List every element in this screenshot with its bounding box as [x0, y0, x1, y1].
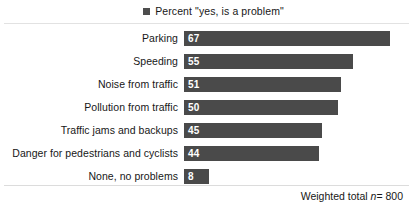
category-label-speeding: Speeding [0, 54, 178, 69]
category-label-none-no-problems: None, no problems [0, 169, 178, 184]
bar-pollution-from-traffic: 50 [184, 100, 338, 115]
bar-value-parking: 67 [188, 31, 200, 46]
bar-row: None, no problems 8 [0, 169, 413, 184]
bar-series-container: Parking 67 Speeding 55 Noise from traffi… [0, 25, 413, 185]
footnote-suffix: = 800 [376, 190, 403, 202]
bar-value-noise-from-traffic: 51 [188, 77, 200, 92]
bar-wrapper: 67 [184, 31, 390, 46]
legend-color-swatch-icon [143, 8, 150, 15]
bar-row: Danger for pedestrians and cyclists 44 [0, 146, 413, 161]
bar-value-pollution-from-traffic: 50 [188, 100, 200, 115]
bar-value-speeding: 55 [188, 54, 200, 69]
legend-label: Percent "yes, is a problem" [155, 5, 284, 17]
category-label-pollution-from-traffic: Pollution from traffic [0, 100, 178, 115]
bar-value-none-no-problems: 8 [188, 169, 194, 184]
chart-legend: Percent "yes, is a problem" [0, 2, 413, 20]
category-label-traffic-jams-and-backups: Traffic jams and backups [0, 123, 178, 138]
bar-wrapper: 44 [184, 146, 319, 161]
bar-wrapper: 51 [184, 77, 341, 92]
bar-traffic-jams-and-backups: 45 [184, 123, 322, 138]
bar-speeding: 55 [184, 54, 353, 69]
bar-wrapper: 45 [184, 123, 322, 138]
weighted-total-footnote: Weighted total n= 800 [301, 190, 403, 203]
bar-row: Speeding 55 [0, 54, 413, 69]
bar-wrapper: 8 [184, 169, 209, 184]
bar-value-danger-for-pedestrians-and-cyclists: 44 [188, 146, 200, 161]
bar-none-no-problems: 8 [184, 169, 209, 184]
bar-row: Pollution from traffic 50 [0, 100, 413, 115]
category-label-noise-from-traffic: Noise from traffic [0, 77, 178, 92]
bar-noise-from-traffic: 51 [184, 77, 341, 92]
bar-value-traffic-jams-and-backups: 45 [188, 123, 200, 138]
category-label-parking: Parking [0, 31, 178, 46]
bar-row: Noise from traffic 51 [0, 77, 413, 92]
bar-row: Traffic jams and backups 45 [0, 123, 413, 138]
bar-wrapper: 55 [184, 54, 353, 69]
bar-parking: 67 [184, 31, 390, 46]
bar-chart-figure: Percent "yes, is a problem" Parking 67 S… [0, 0, 413, 211]
category-label-danger-for-pedestrians-and-cyclists: Danger for pedestrians and cyclists [0, 146, 178, 161]
bar-wrapper: 50 [184, 100, 338, 115]
bar-row: Parking 67 [0, 31, 413, 46]
bar-danger-for-pedestrians-and-cyclists: 44 [184, 146, 319, 161]
legend-item-percent-yes: Percent "yes, is a problem" [143, 5, 284, 17]
footnote-prefix: Weighted total [301, 190, 371, 202]
